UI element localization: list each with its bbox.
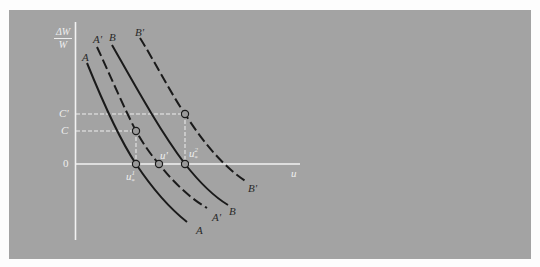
point-u-star-2 [181,160,188,167]
y-tick-c: C [61,125,68,136]
point-u-star-1 [132,160,139,167]
point-c-prime-on-b-prime [181,110,188,117]
curve-a [87,63,187,222]
u-star-2-label: u2* [189,147,198,162]
point-u-prime [155,160,162,167]
phillips-curve-diagram [0,0,540,267]
curve-b-prime-bottom-label: B' [248,183,257,194]
curve-a-bottom-label: A [196,225,203,236]
curve-b-prime-top-label: B' [135,27,144,38]
curve-a-prime-bottom-label: A' [212,212,221,223]
point-c-on-a-prime [132,127,139,134]
curve-a-prime [97,47,207,208]
u-star-1-label: u1* [126,170,135,185]
y-axis-label-numerator: ΔW [54,27,72,39]
curve-a-prime-top-label: A' [93,34,102,45]
y-axis-label: ΔW W [54,27,72,50]
y-tick-c-prime: C' [59,108,69,119]
y-axis-label-denominator: W [54,39,72,50]
u-prime-label: u' [160,150,168,161]
curve-a-top-label: A [82,52,89,63]
x-axis-label: u [291,168,297,179]
y-tick-zero: 0 [63,158,69,169]
curve-b-bottom-label: B [229,206,236,217]
curve-b-top-label: B [109,32,116,43]
